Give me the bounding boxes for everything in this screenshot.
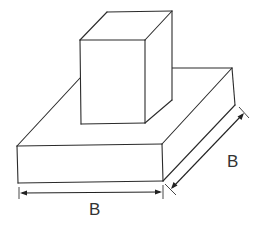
footing-diagram: B B xyxy=(0,0,264,227)
dimension-width: B xyxy=(19,185,163,219)
width-label: B xyxy=(89,200,100,219)
arrowhead-right-icon xyxy=(155,190,162,195)
dimension-line-width xyxy=(22,192,160,193)
depth-label: B xyxy=(227,152,238,171)
arrowhead-left-icon xyxy=(20,191,27,196)
column-block xyxy=(80,11,172,124)
